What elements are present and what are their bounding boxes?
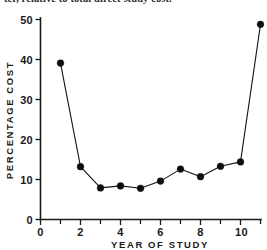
y-tick-label: 0 <box>27 214 33 226</box>
y-axis-title: PERCENTAGE COST <box>4 61 15 179</box>
line-chart: 0 10 20 30 40 50 0 2 4 <box>0 0 267 250</box>
y-tick-label: 20 <box>20 134 33 146</box>
x-tick-labels: 0 2 4 6 8 10 <box>37 226 248 238</box>
data-point <box>57 60 64 67</box>
y-tick-label: 10 <box>20 174 33 186</box>
x-tick-label: 6 <box>157 226 163 238</box>
x-axis-title: YEAR OF STUDY <box>111 239 209 250</box>
x-tick-label: 2 <box>77 226 83 238</box>
data-point <box>257 21 264 28</box>
data-point <box>157 178 164 185</box>
data-point <box>217 163 224 170</box>
y-tick-labels: 0 10 20 30 40 50 <box>20 14 33 226</box>
data-point <box>237 159 244 166</box>
data-point <box>197 173 204 180</box>
y-tick-label: 30 <box>20 94 33 106</box>
data-point <box>117 183 124 190</box>
series-line <box>61 24 261 188</box>
x-tick-label: 4 <box>117 226 124 238</box>
figure-panel: ter, relative to total direct study cost… <box>0 0 267 250</box>
x-tick-label: 0 <box>37 226 43 238</box>
series-markers <box>57 21 264 192</box>
data-point <box>77 163 84 170</box>
x-tick-label: 10 <box>235 226 248 238</box>
y-tick-label: 40 <box>20 54 33 66</box>
data-point <box>137 185 144 192</box>
data-point <box>177 166 184 173</box>
x-tick-label: 8 <box>197 226 203 238</box>
y-tick-label: 50 <box>20 14 33 26</box>
data-point <box>97 185 104 192</box>
